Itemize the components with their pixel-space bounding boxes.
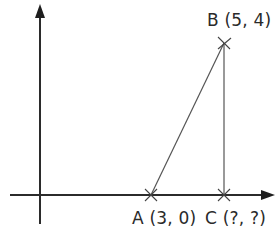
segment-ab xyxy=(151,43,224,195)
y-axis-arrow-icon xyxy=(35,4,45,18)
diagram-canvas xyxy=(0,0,278,237)
point-a-label: A (3, 0) xyxy=(132,210,196,227)
x-axis xyxy=(10,190,275,200)
x-axis-arrow-icon xyxy=(261,190,275,200)
y-axis xyxy=(35,4,45,224)
point-b-label: B (5, 4) xyxy=(207,12,271,29)
point-c-label: C (?, ?) xyxy=(205,210,266,227)
